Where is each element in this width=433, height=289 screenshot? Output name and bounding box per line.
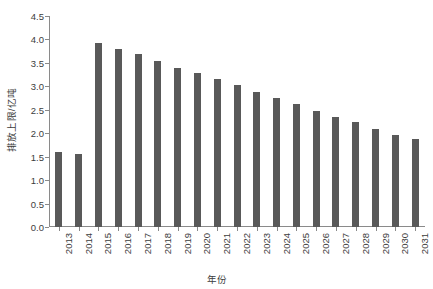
x-tick-label: 2015 <box>102 233 113 254</box>
x-tick-mark <box>296 227 297 231</box>
y-tick-label: 1.0 <box>31 175 44 186</box>
x-tick-label: 2017 <box>142 233 153 254</box>
x-tick-mark <box>178 227 179 231</box>
bar <box>115 49 122 227</box>
bar <box>293 104 300 227</box>
bar <box>352 122 359 227</box>
x-tick-mark <box>118 227 119 231</box>
y-tick-label: 1.5 <box>31 151 44 162</box>
bar <box>392 135 399 227</box>
x-tick-mark <box>277 227 278 231</box>
x-tick-label: 2028 <box>360 233 371 254</box>
bar <box>75 154 82 227</box>
bar <box>194 73 201 227</box>
x-tick-mark <box>79 227 80 231</box>
x-tick-label: 2016 <box>122 233 133 254</box>
x-tick-label: 2013 <box>63 233 74 254</box>
bar <box>253 92 260 227</box>
x-tick-label: 2022 <box>241 233 252 254</box>
x-tick-mark <box>395 227 396 231</box>
x-tick-label: 2031 <box>419 233 430 254</box>
bar <box>154 61 161 227</box>
bar <box>313 111 320 227</box>
x-tick-label: 2027 <box>340 233 351 254</box>
bar <box>273 98 280 227</box>
y-tick-label: 3.5 <box>31 57 44 68</box>
y-tick-label: 0.0 <box>31 222 44 233</box>
x-axis-title: 年份 <box>0 272 433 286</box>
bar <box>234 85 241 227</box>
y-axis-tick-labels: 0.00.51.01.52.02.53.03.54.04.5 <box>20 0 46 289</box>
y-tick-label: 4.0 <box>31 34 44 45</box>
x-tick-mark <box>59 227 60 231</box>
x-tick-label: 2019 <box>182 233 193 254</box>
x-tick-label: 2014 <box>83 233 94 254</box>
x-tick-mark <box>257 227 258 231</box>
bar <box>174 68 181 227</box>
y-axis-title-text: 排放上限/亿吨 <box>4 88 18 152</box>
bar <box>135 54 142 227</box>
x-tick-label: 2030 <box>399 233 410 254</box>
x-tick-mark <box>415 227 416 231</box>
bar <box>214 79 221 227</box>
x-tick-mark <box>376 227 377 231</box>
x-axis-tick-labels: 2013201420152016201720182019202020212022… <box>49 233 425 273</box>
y-tick-label: 0.5 <box>31 198 44 209</box>
x-tick-mark <box>158 227 159 231</box>
x-tick-mark <box>356 227 357 231</box>
x-tick-label: 2025 <box>300 233 311 254</box>
y-axis-title: 排放上限/亿吨 <box>0 0 22 240</box>
x-tick-mark <box>316 227 317 231</box>
x-tick-label: 2023 <box>261 233 272 254</box>
x-tick-mark <box>98 227 99 231</box>
x-tick-label: 2026 <box>320 233 331 254</box>
y-tick-label: 2.0 <box>31 128 44 139</box>
x-tick-label: 2029 <box>380 233 391 254</box>
y-tick-label: 2.5 <box>31 104 44 115</box>
bar <box>95 43 102 227</box>
x-tick-label: 2018 <box>162 233 173 254</box>
x-tick-mark <box>138 227 139 231</box>
x-tick-mark <box>336 227 337 231</box>
bar <box>412 139 419 227</box>
bars-layer <box>49 16 425 227</box>
x-tick-mark <box>237 227 238 231</box>
x-tick-label: 2021 <box>221 233 232 254</box>
x-tick-label: 2020 <box>201 233 212 254</box>
bar-chart: 排放上限/亿吨 0.00.51.01.52.02.53.03.54.04.5 2… <box>0 0 433 289</box>
y-tick-label: 3.0 <box>31 81 44 92</box>
bar <box>55 152 62 227</box>
x-tick-mark <box>217 227 218 231</box>
x-tick-mark <box>197 227 198 231</box>
bar <box>332 117 339 227</box>
plot-area <box>49 16 425 227</box>
y-tick-label: 4.5 <box>31 11 44 22</box>
x-tick-label: 2024 <box>281 233 292 254</box>
bar <box>372 129 379 227</box>
